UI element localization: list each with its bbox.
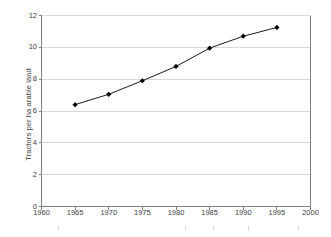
- data-point-marker: [173, 64, 178, 69]
- scan-artifact: [185, 226, 186, 231]
- scan-artifact: [213, 226, 214, 231]
- x-axis-tick-labels: 196019651970197519801985199019952000: [0, 209, 331, 223]
- scan-artifact: [298, 226, 299, 231]
- plot-area: [0, 0, 331, 237]
- line-chart-figure: Tractors per ha arable land 024681012 19…: [0, 0, 331, 237]
- gridlines: [42, 16, 311, 175]
- scan-artifacts: [0, 226, 331, 237]
- data-point-marker: [73, 102, 78, 107]
- data-point-markers: [73, 25, 280, 107]
- data-point-marker: [106, 92, 111, 97]
- scan-artifact: [58, 226, 59, 231]
- scan-artifact: [248, 226, 249, 231]
- x-tick-label-2000: 2000: [291, 209, 331, 217]
- data-point-marker: [274, 25, 279, 30]
- data-point-marker: [207, 46, 212, 51]
- data-point-marker: [241, 34, 246, 39]
